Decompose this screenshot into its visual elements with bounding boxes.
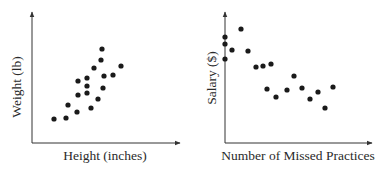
chart-canvas: Height (inches) Weight (lb) Number of Mi… bbox=[0, 0, 381, 173]
data-point bbox=[253, 64, 258, 69]
y-axis-label: Weight (lb) bbox=[9, 56, 24, 118]
scatter-plot-height-weight: Height (inches) Weight (lb) bbox=[9, 12, 180, 163]
data-point bbox=[101, 73, 106, 78]
data-point bbox=[273, 94, 278, 99]
data-point bbox=[268, 61, 273, 66]
data-point bbox=[99, 46, 104, 51]
data-point bbox=[238, 26, 243, 31]
data-point bbox=[51, 116, 56, 121]
data-point bbox=[100, 85, 105, 90]
data-point bbox=[98, 57, 103, 62]
data-point bbox=[222, 41, 227, 46]
data-point bbox=[284, 87, 289, 92]
data-point bbox=[75, 78, 80, 83]
data-point bbox=[84, 75, 89, 80]
data-point bbox=[91, 65, 96, 70]
data-point bbox=[110, 72, 115, 77]
data-point bbox=[84, 83, 89, 88]
x-axis-label: Height (inches) bbox=[63, 148, 147, 163]
data-point bbox=[63, 115, 68, 120]
data-point bbox=[245, 48, 250, 53]
data-point bbox=[222, 34, 227, 39]
data-points bbox=[222, 26, 335, 110]
data-point bbox=[74, 109, 79, 114]
data-point bbox=[330, 84, 335, 89]
data-point bbox=[299, 85, 304, 90]
data-point bbox=[260, 63, 265, 68]
scatter-plot-missed-practices-salary: Number of Missed Practices Salary ($) bbox=[204, 12, 375, 163]
data-point bbox=[88, 105, 93, 110]
data-point bbox=[118, 63, 123, 68]
data-point bbox=[75, 92, 80, 97]
data-points bbox=[51, 46, 123, 121]
data-point bbox=[229, 47, 234, 52]
x-axis-label: Number of Missed Practices bbox=[221, 148, 374, 163]
y-axis-label: Salary ($) bbox=[204, 51, 219, 105]
data-point bbox=[322, 105, 327, 110]
data-point bbox=[65, 102, 70, 107]
data-point bbox=[95, 96, 100, 101]
data-point bbox=[307, 96, 312, 101]
data-point bbox=[84, 90, 89, 95]
data-point bbox=[315, 89, 320, 94]
data-point bbox=[264, 86, 269, 91]
data-point bbox=[222, 56, 227, 61]
data-point bbox=[291, 73, 296, 78]
